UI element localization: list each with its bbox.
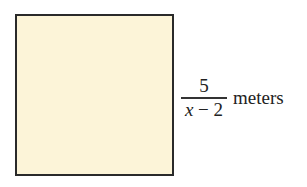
side-length-label: 5 x − 2 meters [181,76,284,120]
denominator-constant: − 2 [193,99,223,120]
unit-label: meters [233,87,284,109]
fraction-numerator: 5 [197,76,211,96]
square-figure [15,14,174,176]
fraction: 5 x − 2 [181,76,227,120]
fraction-denominator: x − 2 [185,100,223,120]
